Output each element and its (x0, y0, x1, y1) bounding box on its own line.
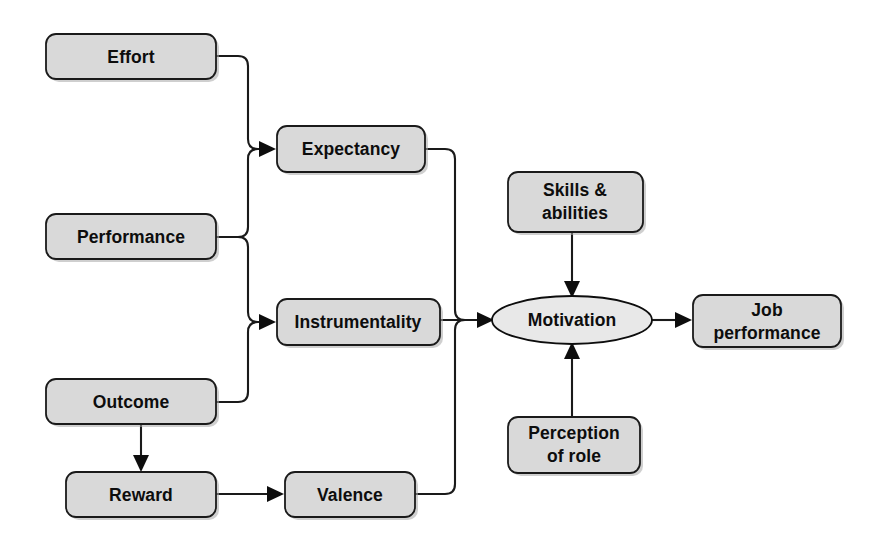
edge-performance-to-expectancy (216, 149, 258, 237)
node-perception-of-role[interactable]: Perception of role (508, 417, 643, 476)
motivation-label: Motivation (528, 310, 617, 330)
instrumentality-label: Instrumentality (295, 312, 422, 332)
expectancy-label: Expectancy (302, 139, 400, 159)
reward-label: Reward (109, 485, 173, 505)
outcome-label: Outcome (93, 392, 170, 412)
skills-abilities-label-line2: abilities (542, 203, 608, 223)
job-performance-label-line1: Job (751, 300, 782, 320)
arrowhead-icon-to-expectancy (259, 141, 276, 157)
node-layer: Effort Performance Outcome Reward (46, 34, 844, 520)
edge-performance-to-instrumentality (216, 237, 268, 322)
performance-label: Performance (77, 227, 185, 247)
node-motivation[interactable]: Motivation (492, 296, 652, 344)
node-reward[interactable]: Reward (66, 472, 219, 520)
edge-outcome-to-instrumentality (216, 322, 258, 402)
node-job-performance[interactable]: Job performance (693, 295, 844, 350)
node-valence[interactable]: Valence (285, 472, 418, 520)
diagram-canvas: Effort Performance Outcome Reward (0, 0, 875, 545)
edge-expectancy-to-motivation (425, 149, 484, 320)
perception-of-role-label-line2: of role (547, 446, 601, 466)
node-performance[interactable]: Performance (46, 214, 219, 262)
effort-label: Effort (107, 47, 154, 67)
skills-abilities-label-line1: Skills & (543, 180, 607, 200)
edge-effort-to-expectancy (216, 56, 268, 149)
node-skills-abilities[interactable]: Skills & abilities (508, 172, 646, 235)
arrowhead-icon-to-instrumentality (259, 314, 276, 330)
perception-of-role-label-line1: Perception (528, 423, 619, 443)
arrowhead-icon-to-valence (267, 486, 284, 502)
node-instrumentality[interactable]: Instrumentality (277, 299, 443, 348)
valence-label: Valence (317, 485, 383, 505)
job-performance-label-line2: performance (713, 323, 820, 343)
arrowhead-icon-to-reward (133, 455, 149, 472)
node-effort[interactable]: Effort (46, 34, 219, 82)
expectancy-theory-diagram: Effort Performance Outcome Reward (0, 0, 875, 545)
node-expectancy[interactable]: Expectancy (277, 126, 428, 175)
node-outcome[interactable]: Outcome (46, 379, 219, 427)
arrowhead-icon-to-job-performance (675, 312, 692, 328)
